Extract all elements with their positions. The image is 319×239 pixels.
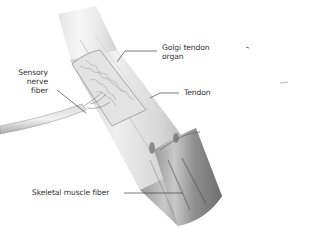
label-golgi-line1: Golgi tendon xyxy=(162,43,210,52)
golgi-tendon-organ-illustration xyxy=(0,0,319,239)
label-skeletal-muscle-fiber: Skeletal muscle fiber xyxy=(32,188,109,197)
stray-mark xyxy=(280,82,288,83)
label-sensory-nerve-fiber: Sensory nerve fiber xyxy=(2,68,48,95)
label-sensory-line3: fiber xyxy=(2,86,48,95)
label-golgi-line2: organ xyxy=(162,52,210,61)
label-golgi-tendon-organ: Golgi tendon organ xyxy=(162,43,210,61)
stray-mark xyxy=(246,47,249,48)
label-tendon: Tendon xyxy=(184,88,211,97)
label-sensory-line2: nerve xyxy=(2,77,48,86)
label-sensory-line1: Sensory xyxy=(2,68,48,77)
